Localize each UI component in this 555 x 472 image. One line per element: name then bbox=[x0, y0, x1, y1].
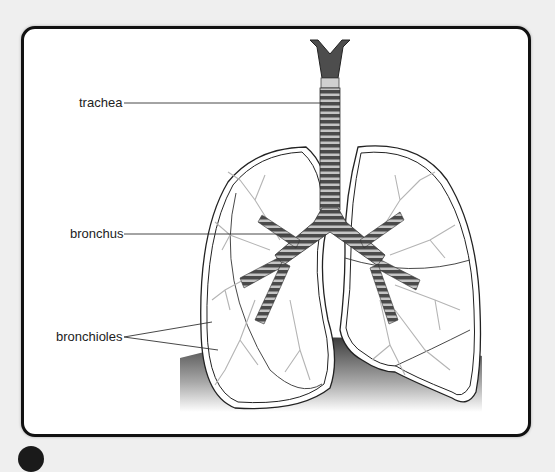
bronchi bbox=[240, 208, 420, 324]
label-bronchioles: bronchioles bbox=[56, 329, 123, 344]
left-lung bbox=[201, 147, 335, 409]
label-bronchus: bronchus bbox=[70, 226, 123, 241]
corner-circle-icon bbox=[18, 446, 44, 472]
label-trachea: trachea bbox=[79, 95, 122, 110]
